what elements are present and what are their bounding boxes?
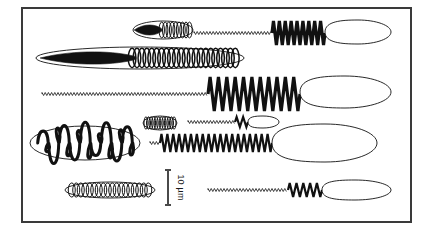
spirochete-short-terminal-wave-vesicle [322,180,391,200]
cyst-slender-coiled [65,182,155,198]
figure-root: 10 µm [0,0,425,235]
cyst-lens-coiled [133,21,193,39]
cyst-small-dense [143,116,177,130]
spirochete-thin-small-vesicle-vesicle [248,116,279,128]
cyst-elongate-helix [36,47,244,69]
spirochete-regular-zigzag-vesicle [272,124,377,162]
spirochete-short-dense-vesicle [325,20,391,44]
spirochete-morphology-figure: 10 µm [0,0,425,235]
spirochete-long-large-amplitude-vesicle [300,76,391,108]
scale-bar-label: 10 µm [176,174,186,200]
